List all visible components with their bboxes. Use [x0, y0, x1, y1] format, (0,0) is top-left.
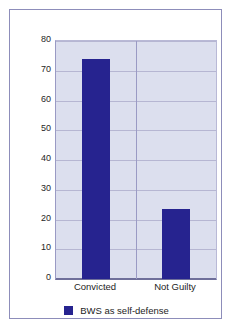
y-axis: 01020304050607080 [10, 40, 51, 278]
y-tick-label-70: 70 [11, 65, 51, 74]
chart-legend: BWS as self-defense [10, 302, 223, 318]
y-tick-label-20: 20 [11, 214, 51, 223]
y-tick-label-60: 60 [11, 95, 51, 104]
y-tick-label-30: 30 [11, 184, 51, 193]
legend-swatch-icon [64, 306, 73, 315]
y-tick-label-80: 80 [11, 35, 51, 44]
y-tick-label-10: 10 [11, 243, 51, 252]
x-tick-label-not-guilty: Not Guilty [135, 281, 215, 293]
figure-root: 01020304050607080 ConvictedNot Guilty BW… [0, 0, 234, 331]
bar-not-guilty [162, 209, 190, 279]
plot-area [55, 40, 217, 280]
x-tick-label-convicted: Convicted [55, 281, 135, 293]
y-tick-label-50: 50 [11, 124, 51, 133]
category-divider-line [136, 41, 137, 279]
legend-label: BWS as self-defense [80, 305, 169, 316]
y-tick-label-0: 0 [11, 273, 51, 282]
figure-frame: 01020304050607080 ConvictedNot Guilty BW… [9, 9, 222, 319]
bar-convicted [82, 59, 110, 279]
x-axis: ConvictedNot Guilty [55, 281, 217, 295]
y-tick-label-40: 40 [11, 154, 51, 163]
